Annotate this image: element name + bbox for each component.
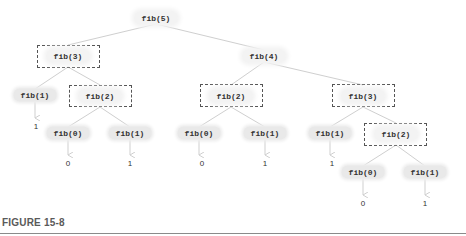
tree-edge [156,24,264,50]
tree-edge [363,107,396,123]
tree-edge [68,107,100,127]
call-node-n0d: fib(0) [342,166,385,179]
call-node-n1b: fib(1) [109,127,152,140]
call-node-n1c: fib(1) [244,127,287,140]
tree-edge [264,62,363,85]
tree-edge [68,67,100,85]
call-node-n1e: fib(1) [404,166,447,179]
call-node-n3a: fib(3) [47,50,90,63]
tree-edge [396,145,425,166]
call-node-n2a: fib(2) [79,90,122,103]
tree-edges [0,0,466,236]
return-value: 1 [423,199,427,208]
tree-edge [330,107,363,127]
call-node-n3b: fib(3) [342,90,385,103]
tree-edge [231,107,265,127]
return-value: 1 [330,159,334,168]
tree-edge [68,24,156,45]
tree-edge [199,107,231,127]
return-value: 1 [263,159,267,168]
figure-caption: FIGURE 15-8 [2,217,65,228]
call-node-n1d: fib(1) [309,127,352,140]
tree-edge [35,67,68,89]
return-value: 1 [34,122,38,131]
fib-call-tree: fib(5)fib(3)fib(4)fib(1)fib(2)fib(0)fib(… [0,0,466,236]
return-value: 0 [200,159,204,168]
tree-edge [363,145,396,166]
return-value: 0 [361,199,365,208]
call-node-n5: fib(5) [135,12,178,25]
call-node-n4: fib(4) [243,50,286,63]
call-node-n2b: fib(2) [210,90,253,103]
tree-edge [231,62,264,85]
call-node-n0b: fib(0) [47,127,90,140]
call-node-n0c: fib(0) [178,127,221,140]
call-node-n1a: fib(1) [14,89,57,102]
call-node-n2c: fib(2) [375,128,418,141]
return-value: 1 [128,159,132,168]
caption-rule [0,233,466,234]
return-value: 0 [66,159,70,168]
tree-edge [100,107,130,127]
